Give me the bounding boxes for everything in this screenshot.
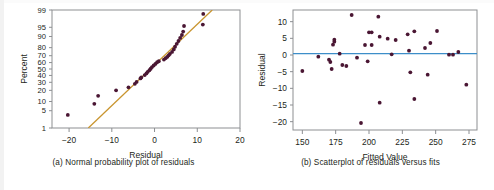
data-point (135, 80, 139, 84)
data-point (406, 32, 410, 36)
data-point (201, 12, 205, 16)
data-point (376, 15, 380, 19)
data-point (412, 97, 416, 101)
y-tick-label: 20 (38, 86, 46, 95)
data-point (114, 88, 118, 92)
data-point (328, 60, 332, 64)
y-tick-label: 10 (38, 97, 46, 106)
data-point (412, 29, 416, 33)
data-point (157, 59, 161, 63)
y-tick-label: 99 (38, 6, 46, 15)
data-point (378, 35, 382, 39)
data-point (378, 101, 382, 105)
x-tick-label: −10 (105, 135, 120, 145)
plot-frame (52, 10, 240, 128)
y-tick-label: 10 (278, 17, 288, 27)
y-tick-label: −5 (277, 67, 287, 77)
data-point (426, 73, 430, 77)
x-tick-label: 225 (395, 137, 409, 147)
data-point (423, 46, 427, 50)
data-point (456, 50, 460, 54)
x-tick-label: 20 (235, 135, 245, 145)
data-point (370, 43, 374, 47)
x-tick-label: 175 (329, 137, 343, 147)
y-tick-label: −15 (273, 100, 288, 110)
data-point (350, 13, 354, 17)
data-point (180, 33, 184, 37)
x-tick-label: 200 (362, 137, 376, 147)
data-point (338, 52, 342, 56)
y-tick-label: 80 (38, 43, 46, 52)
data-point (394, 38, 398, 42)
data-point (66, 113, 70, 117)
y-tick-label: 95 (38, 23, 46, 32)
data-point (127, 85, 131, 89)
data-point (355, 56, 359, 60)
data-point (181, 30, 185, 34)
panel-normal-probability-plot: 151020304050607080909599−20−1001020Resid… (0, 0, 247, 190)
data-point (201, 23, 205, 27)
data-point (370, 30, 374, 34)
x-tick-label: −20 (62, 135, 77, 145)
panel-b-caption: (b) Scatterplot of residuals versus fits (247, 158, 494, 167)
data-point (447, 53, 451, 57)
y-tick-label: 0 (282, 50, 287, 60)
data-point (408, 70, 412, 74)
y-tick-label: 1 (42, 124, 46, 133)
data-point (366, 59, 370, 63)
data-point (96, 94, 100, 98)
panel-a-caption: (a) Normal probability plot of residuals (0, 158, 247, 167)
data-point (363, 43, 367, 47)
data-point (435, 29, 439, 33)
plot-frame (293, 10, 477, 130)
data-point (359, 121, 363, 125)
data-point (300, 69, 304, 73)
x-tick-label: 10 (193, 135, 203, 145)
data-point (407, 49, 411, 53)
data-point (139, 76, 143, 80)
y-tick-label: −20 (273, 117, 288, 127)
data-point (451, 53, 455, 57)
data-point (330, 67, 334, 71)
y-axis-label: Percent (19, 54, 29, 84)
data-point (92, 102, 96, 106)
panel-residuals-vs-fits: 1050−5−10−15−20150175200225250275Fitted … (247, 0, 494, 190)
data-point (464, 83, 468, 87)
data-point (182, 24, 186, 28)
data-point (344, 64, 348, 68)
y-tick-label: −10 (273, 83, 288, 93)
data-point (332, 40, 336, 44)
y-tick-label: 70 (38, 51, 46, 60)
x-tick-label: 0 (152, 135, 157, 145)
data-point (340, 63, 344, 67)
data-point (316, 55, 320, 59)
data-point (386, 37, 390, 41)
y-tick-label: 90 (38, 32, 46, 41)
residuals-vs-fits-svg: 1050−5−10−15−20150175200225250275Fitted … (247, 0, 494, 160)
y-tick-label: 5 (282, 33, 287, 43)
x-tick-label: 250 (429, 137, 443, 147)
y-axis-label: Residual (257, 53, 267, 87)
x-tick-label: 150 (295, 137, 309, 147)
data-point (390, 52, 394, 56)
y-tick-label: 5 (42, 106, 46, 115)
figure-container: 151020304050607080909599−20−1001020Resid… (0, 0, 494, 190)
data-point (428, 41, 432, 45)
x-tick-label: 275 (462, 137, 476, 147)
normal-probability-plot-svg: 151020304050607080909599−20−1001020Resid… (0, 0, 247, 160)
